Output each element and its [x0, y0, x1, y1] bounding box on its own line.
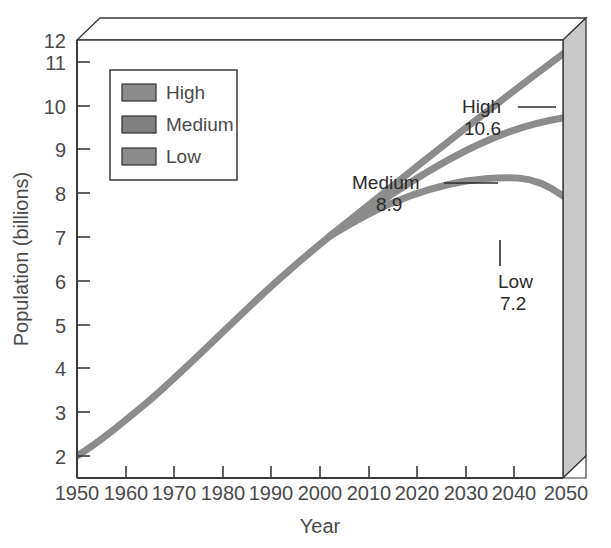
- legend-label-high: High: [166, 82, 205, 103]
- x-tick-label-1960: 1960: [104, 482, 149, 504]
- annotation-medium-label: Medium: [352, 172, 420, 193]
- right-side-panel-3d: [563, 18, 586, 478]
- annotation-medium-value: 8.9: [376, 194, 402, 215]
- x-tick-label-2040: 2040: [492, 482, 537, 504]
- x-axis-tick-labels: 1950 1960 1970 1980 1990 2000 2010 2020 …: [55, 482, 589, 504]
- annotation-low-label: Low: [498, 271, 533, 292]
- y-tick-label-12: 12: [44, 30, 66, 52]
- y-tick-label-9: 9: [55, 139, 66, 161]
- y-tick-label-2: 2: [55, 446, 66, 468]
- x-tick-label-1950: 1950: [55, 482, 100, 504]
- annotation-high-label: High: [462, 96, 501, 117]
- x-tick-label-1990: 1990: [249, 482, 294, 504]
- x-tick-label-2010: 2010: [347, 482, 392, 504]
- annotation-high-value: 10.6: [464, 118, 501, 139]
- top-panel-3d: [77, 18, 586, 40]
- y-tick-label-6: 6: [55, 271, 66, 293]
- x-tick-label-2000: 2000: [298, 482, 343, 504]
- y-axis-tick-labels: 12 11 10 9 8 7 6 5 4 3 2: [44, 30, 66, 468]
- legend-swatch-medium: [122, 116, 156, 133]
- legend-swatch-high: [122, 84, 156, 101]
- legend-label-medium: Medium: [166, 114, 234, 135]
- y-tick-label-11: 11: [45, 52, 66, 74]
- x-tick-label-1970: 1970: [152, 482, 197, 504]
- y-tick-label-8: 8: [55, 183, 66, 205]
- x-tick-label-1980: 1980: [201, 482, 246, 504]
- chart-canvas: 12 11 10 9 8 7 6 5 4 3 2 1950 1960 1970 …: [0, 0, 611, 548]
- population-projection-chart: 12 11 10 9 8 7 6 5 4 3 2 1950 1960 1970 …: [0, 0, 611, 548]
- x-tick-label-2030: 2030: [444, 482, 489, 504]
- x-tick-label-2050: 2050: [544, 482, 589, 504]
- y-tick-label-5: 5: [55, 315, 66, 337]
- legend: High Medium Low: [110, 70, 237, 180]
- y-tick-label-10: 10: [44, 96, 66, 118]
- annotation-low-value: 7.2: [500, 293, 526, 314]
- x-axis-title: Year: [300, 515, 341, 537]
- y-tick-label-3: 3: [55, 402, 66, 424]
- legend-label-low: Low: [166, 146, 201, 167]
- y-axis-title: Population (billions): [10, 172, 32, 347]
- legend-swatch-low: [122, 148, 156, 165]
- y-tick-label-7: 7: [55, 227, 66, 249]
- y-tick-label-4: 4: [55, 358, 66, 380]
- x-tick-label-2020: 2020: [395, 482, 440, 504]
